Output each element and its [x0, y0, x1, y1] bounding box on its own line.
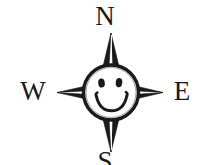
cardinal-label-north: N [91, 3, 119, 30]
cardinal-label-south: S [91, 148, 119, 165]
cardinal-label-east: E [168, 78, 196, 105]
smiley-face-icon [84, 65, 139, 120]
smile-corner-left [96, 93, 97, 97]
cardinal-label-west: W [18, 78, 48, 105]
compass-rose-figure: N W E S [0, 0, 205, 165]
smile-corner-right [126, 92, 127, 96]
